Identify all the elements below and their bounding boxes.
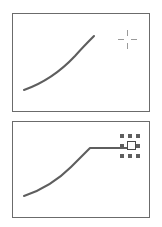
selected-node[interactable] xyxy=(127,141,136,150)
resize-handle-nw[interactable] xyxy=(120,134,124,138)
resize-handle-sw[interactable] xyxy=(120,154,124,158)
rising-curve-flattened[interactable] xyxy=(24,148,90,196)
crosshair-cursor[interactable] xyxy=(118,30,137,49)
resize-handle-s[interactable] xyxy=(128,154,132,158)
before-panel-canvas xyxy=(13,14,149,111)
crosshair-arm-east xyxy=(131,39,137,40)
after-panel[interactable] xyxy=(12,121,150,218)
node-selection-handles[interactable] xyxy=(118,134,144,158)
resize-handle-w[interactable] xyxy=(120,144,124,148)
crosshair-arm-north xyxy=(127,30,128,36)
crosshair-arm-south xyxy=(127,43,128,49)
resize-handle-e[interactable] xyxy=(136,144,140,148)
crosshair-arm-west xyxy=(118,39,124,40)
resize-handle-ne[interactable] xyxy=(136,134,140,138)
before-panel[interactable] xyxy=(12,13,150,112)
resize-handle-se[interactable] xyxy=(136,154,140,158)
resize-handle-n[interactable] xyxy=(128,134,132,138)
diagram-stage xyxy=(0,0,162,227)
rising-curve[interactable] xyxy=(24,36,94,90)
